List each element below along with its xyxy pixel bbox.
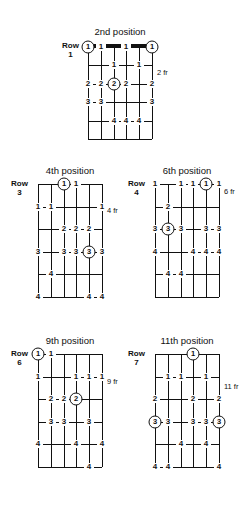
- diagram-title: 11th position: [160, 335, 213, 346]
- finger-marker: 4: [214, 463, 224, 471]
- finger-marker: 3: [188, 418, 198, 426]
- string-line: [193, 354, 194, 467]
- finger-marker: 2: [150, 395, 160, 403]
- row-label: Row7: [128, 350, 145, 367]
- finger-marker: 3: [163, 418, 173, 426]
- fretboard-grid: 11112223333344444: [155, 354, 219, 467]
- finger-marker: 2: [188, 395, 198, 403]
- finger-marker: 4: [201, 440, 211, 448]
- finger-marker: 1: [201, 373, 211, 381]
- string-line: [168, 354, 169, 467]
- string-line: [219, 354, 220, 467]
- finger-marker: 1: [176, 373, 186, 381]
- finger-marker: 3: [201, 418, 211, 426]
- string-line: [206, 354, 207, 467]
- fret-line: [155, 399, 219, 400]
- finger-marker: 4: [163, 463, 173, 471]
- root-note-marker: 3: [213, 416, 226, 429]
- finger-marker: 4: [150, 463, 160, 471]
- row-label-word: Row: [128, 349, 145, 358]
- string-line: [155, 354, 156, 467]
- row-label-number: 7: [128, 359, 145, 368]
- scale-diagram-sheet: 2nd positionRow12 fr111111222223334444th…: [0, 0, 242, 505]
- root-note-marker: 3: [149, 416, 162, 429]
- finger-marker: 2: [214, 395, 224, 403]
- string-line: [181, 354, 182, 467]
- root-note-marker: 1: [187, 348, 200, 361]
- fret-position-label: 11 fr: [224, 383, 238, 391]
- finger-marker: 4: [176, 440, 186, 448]
- fretboard-diagram-pos-11: 11th positionRow711 fr11112223333344444: [0, 0, 242, 505]
- finger-marker: 1: [163, 373, 173, 381]
